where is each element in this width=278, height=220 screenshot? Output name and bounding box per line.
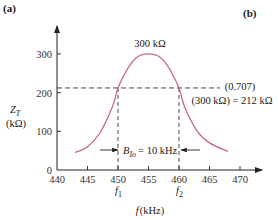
x-tick-label: 460 [171, 174, 187, 185]
x-tick-label: 450 [110, 174, 126, 185]
cutoff-lines [118, 88, 179, 170]
x-tick-label: 465 [202, 174, 218, 185]
bandwidth-label: BΙο= 10 kHz [123, 145, 178, 159]
peak-label: 300 kΩ [134, 38, 166, 49]
y-tick-label: 100 [36, 126, 52, 137]
half-power-value: (300 kΩ) = 212 kΩ [191, 95, 272, 107]
half-power-factor: (0.707) [225, 81, 256, 93]
x-axis-label: f(kHz) [136, 205, 165, 217]
x-ticks: 440445450455460465470 [49, 166, 248, 185]
y-tick-label: 200 [36, 88, 52, 99]
impedance-chart: 0100200300 440445450455460465470 300 kΩ … [0, 0, 278, 220]
x-tick-label: 440 [49, 174, 65, 185]
x-tick-label: 470 [232, 174, 248, 185]
y-tick-label: 300 [36, 49, 52, 60]
f2-label: f2 [176, 185, 183, 199]
f1-label: f1 [115, 185, 122, 199]
y-axis-label: ZT [10, 104, 21, 118]
y-axis-unit: (kΩ) [6, 118, 27, 130]
x-tick-label: 455 [141, 174, 157, 185]
x-tick-label: 445 [80, 174, 96, 185]
